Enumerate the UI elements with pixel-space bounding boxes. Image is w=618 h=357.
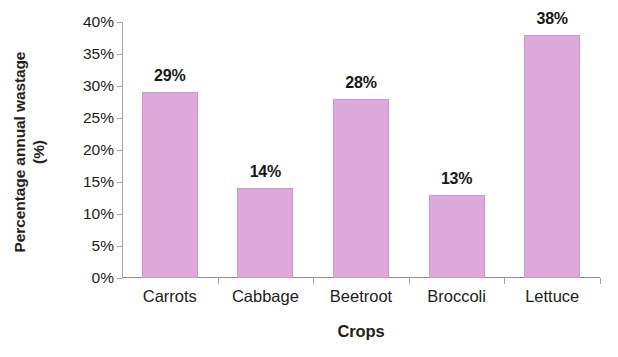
x-axis-tick-label: Carrots <box>143 288 197 305</box>
y-axis-tick-label: 30% <box>46 78 114 94</box>
bar-group: 14% <box>218 22 314 278</box>
y-axis-tick-label: 35% <box>46 46 114 62</box>
y-axis-title-line-1: Percentage annual wastage <box>11 52 30 253</box>
bar-chart: Percentage annual wastage (%) 0%5%10%15%… <box>0 0 618 357</box>
bars-layer: 29%14%28%13%38% <box>122 22 600 278</box>
x-axis-tick-mark <box>600 278 601 284</box>
bar-group: 29% <box>122 22 218 278</box>
y-axis-tick-label: 25% <box>46 110 114 126</box>
y-axis-tick-label: 5% <box>46 238 114 254</box>
y-axis-tick-label: 40% <box>46 14 114 30</box>
x-axis-tick-label: Lettuce <box>525 288 579 305</box>
x-axis-tick-labels: CarrotsCabbageBeetrootBroccoliLettuce <box>122 288 600 314</box>
x-axis-title: Crops <box>122 322 600 341</box>
bar[interactable] <box>429 195 485 278</box>
bar-value-label: 29% <box>154 67 185 85</box>
bar[interactable] <box>524 35 580 278</box>
x-axis-tick-mark <box>218 278 219 284</box>
y-axis-tick-label: 10% <box>46 206 114 222</box>
y-axis-tick-labels: 0%5%10%15%20%25%30%35%40% <box>46 14 114 278</box>
bar[interactable] <box>237 188 293 278</box>
x-axis-tick-mark <box>504 278 505 284</box>
bar-group: 28% <box>313 22 409 278</box>
x-axis-tick-mark <box>313 278 314 284</box>
x-axis-tick-label: Cabbage <box>232 288 299 305</box>
y-axis-tick-label: 15% <box>46 174 114 190</box>
x-axis-tick-label: Beetroot <box>330 288 392 305</box>
bar-group: 38% <box>504 22 600 278</box>
bar-value-label: 13% <box>441 170 472 188</box>
bar-value-label: 38% <box>536 10 567 28</box>
y-axis-tick-label: 20% <box>46 142 114 158</box>
x-axis-tick-label: Broccoli <box>427 288 486 305</box>
bar-value-label: 28% <box>345 74 376 92</box>
bar[interactable] <box>142 92 198 278</box>
bar-value-label: 14% <box>250 163 281 181</box>
bar[interactable] <box>333 99 389 278</box>
y-axis-tick-mark <box>117 278 122 279</box>
bar-group: 13% <box>409 22 505 278</box>
plot-area: 29%14%28%13%38% <box>122 22 600 278</box>
y-axis-tick-label: 0% <box>46 270 114 286</box>
x-axis-tick-mark <box>409 278 410 284</box>
